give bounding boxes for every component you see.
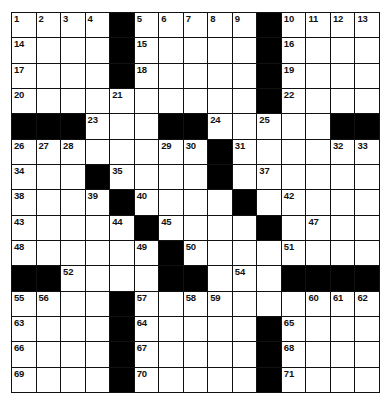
grid-cell[interactable]: 51 [282,241,306,265]
grid-cell[interactable] [355,64,379,88]
grid-cell[interactable]: 11 [306,13,330,37]
grid-cell[interactable] [135,140,159,164]
grid-cell[interactable]: 12 [331,13,355,37]
grid-cell[interactable] [331,368,355,392]
grid-cell[interactable] [86,216,110,240]
grid-cell[interactable]: 43 [12,216,36,240]
grid-cell[interactable] [306,89,330,113]
grid-cell[interactable]: 59 [208,292,232,316]
grid-cell[interactable] [86,89,110,113]
grid-cell[interactable] [233,342,257,366]
grid-cell[interactable] [61,368,85,392]
grid-cell[interactable]: 22 [282,89,306,113]
grid-cell[interactable] [86,292,110,316]
grid-cell[interactable] [37,368,61,392]
grid-cell[interactable]: 19 [282,64,306,88]
grid-cell[interactable] [86,241,110,265]
grid-cell[interactable]: 47 [306,216,330,240]
grid-cell[interactable] [306,190,330,214]
grid-cell[interactable] [37,241,61,265]
grid-cell[interactable] [208,317,232,341]
grid-cell[interactable] [86,64,110,88]
grid-cell[interactable] [233,368,257,392]
grid-cell[interactable] [159,342,183,366]
grid-cell[interactable] [61,89,85,113]
grid-cell[interactable]: 70 [135,368,159,392]
grid-cell[interactable]: 40 [135,190,159,214]
grid-cell[interactable]: 32 [331,140,355,164]
grid-cell[interactable] [110,266,134,290]
grid-cell[interactable] [331,190,355,214]
grid-cell[interactable] [331,241,355,265]
grid-cell[interactable] [135,165,159,189]
grid-cell[interactable]: 27 [37,140,61,164]
grid-cell[interactable] [184,89,208,113]
grid-cell[interactable]: 15 [135,38,159,62]
grid-cell[interactable] [331,342,355,366]
grid-cell[interactable]: 5 [135,13,159,37]
grid-cell[interactable] [37,216,61,240]
grid-cell[interactable] [233,292,257,316]
grid-cell[interactable] [355,190,379,214]
grid-cell[interactable]: 2 [37,13,61,37]
grid-cell[interactable] [159,190,183,214]
grid-cell[interactable] [306,64,330,88]
grid-cell[interactable]: 6 [159,13,183,37]
grid-cell[interactable]: 31 [233,140,257,164]
grid-cell[interactable] [37,38,61,62]
grid-cell[interactable] [135,266,159,290]
grid-cell[interactable] [37,317,61,341]
grid-cell[interactable] [306,342,330,366]
grid-cell[interactable] [110,140,134,164]
grid-cell[interactable]: 68 [282,342,306,366]
grid-cell[interactable]: 17 [12,64,36,88]
grid-cell[interactable] [159,368,183,392]
grid-cell[interactable]: 63 [12,317,36,341]
grid-cell[interactable]: 38 [12,190,36,214]
grid-cell[interactable]: 34 [12,165,36,189]
grid-cell[interactable] [306,241,330,265]
grid-cell[interactable] [61,241,85,265]
grid-cell[interactable] [37,89,61,113]
grid-cell[interactable]: 14 [12,38,36,62]
grid-cell[interactable] [355,317,379,341]
grid-cell[interactable] [86,140,110,164]
grid-cell[interactable] [61,38,85,62]
grid-cell[interactable]: 48 [12,241,36,265]
grid-cell[interactable]: 54 [233,266,257,290]
grid-cell[interactable]: 55 [12,292,36,316]
grid-cell[interactable] [184,64,208,88]
grid-cell[interactable] [110,241,134,265]
grid-cell[interactable]: 18 [135,64,159,88]
grid-cell[interactable]: 50 [184,241,208,265]
grid-cell[interactable] [86,266,110,290]
grid-cell[interactable]: 60 [306,292,330,316]
grid-cell[interactable]: 69 [12,368,36,392]
grid-cell[interactable]: 67 [135,342,159,366]
grid-cell[interactable] [86,368,110,392]
grid-cell[interactable] [331,317,355,341]
grid-cell[interactable] [159,38,183,62]
grid-cell[interactable] [257,190,281,214]
grid-cell[interactable] [233,38,257,62]
grid-cell[interactable] [61,216,85,240]
grid-cell[interactable] [184,368,208,392]
grid-cell[interactable]: 66 [12,342,36,366]
grid-cell[interactable] [159,165,183,189]
grid-cell[interactable] [331,165,355,189]
grid-cell[interactable] [159,64,183,88]
grid-cell[interactable] [184,216,208,240]
grid-cell[interactable] [61,292,85,316]
grid-cell[interactable] [184,342,208,366]
grid-cell[interactable]: 49 [135,241,159,265]
grid-cell[interactable] [282,114,306,138]
grid-cell[interactable] [282,140,306,164]
grid-cell[interactable] [355,165,379,189]
grid-cell[interactable]: 71 [282,368,306,392]
grid-cell[interactable]: 7 [184,13,208,37]
grid-cell[interactable]: 33 [355,140,379,164]
grid-cell[interactable]: 52 [61,266,85,290]
grid-cell[interactable] [37,190,61,214]
grid-cell[interactable] [355,241,379,265]
grid-cell[interactable]: 29 [159,140,183,164]
